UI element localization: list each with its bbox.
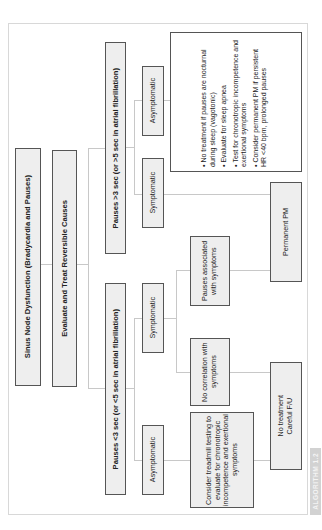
connector xyxy=(176,270,190,271)
pauses-short-label: Pauses <3 sec (or <5 sec in atrial fibri… xyxy=(111,309,120,469)
connector xyxy=(134,318,135,460)
evaluate-node: Evaluate and Treat Reversible Causes xyxy=(52,150,77,387)
recommendation-text: Evaluate for sleep apnea xyxy=(220,85,227,162)
connector xyxy=(134,194,142,195)
short-asymptomatic-node: Asymptomatic xyxy=(142,425,164,495)
root-node-label: Sinus Node Dysfunction (Bradycardia and … xyxy=(23,175,32,358)
connector xyxy=(134,100,135,195)
no-treatment-node: No treatment Careful F/U xyxy=(270,362,302,470)
recommendations-list: • No treatment if pauses are nocturnal d… xyxy=(198,33,274,171)
recommendations-box: • No treatment if pauses are nocturnal d… xyxy=(170,32,302,172)
evaluate-node-label: Evaluate and Treat Reversible Causes xyxy=(60,200,69,337)
connector xyxy=(176,372,190,373)
connector xyxy=(230,372,270,373)
permanent-pm-node: Permanent PM xyxy=(270,182,302,282)
recommendation-item: • Consider permanent PM if persistent HR… xyxy=(252,37,269,167)
short-symptomatic-label: Symptomatic xyxy=(149,297,158,339)
treadmill-node: Consider treadmill testing to evaluate f… xyxy=(190,412,254,508)
no-correlation-label: No correlation with symptoms xyxy=(201,339,218,405)
connector xyxy=(163,194,271,195)
pauses-short-node: Pauses <3 sec (or <5 sec in atrial fibri… xyxy=(105,283,126,495)
connector xyxy=(134,460,142,461)
long-asymptomatic-label: Asymptomatic xyxy=(149,78,158,123)
long-asymptomatic-node: Asymptomatic xyxy=(142,66,164,136)
connector xyxy=(163,100,170,101)
root-node: Sinus Node Dysfunction (Bradycardia and … xyxy=(15,148,41,386)
recommendation-text: Consider permanent PM if persistent HR <… xyxy=(252,49,268,167)
treadmill-label: Consider treadmill testing to evaluate f… xyxy=(205,413,240,507)
pauses-associated-label: Pauses associated with symptoms xyxy=(201,237,218,305)
connector xyxy=(230,270,270,271)
connector xyxy=(40,264,52,265)
connector xyxy=(76,264,88,265)
connector xyxy=(88,388,105,389)
connector xyxy=(88,148,105,149)
connector xyxy=(254,460,270,461)
connector xyxy=(88,148,89,388)
connector xyxy=(134,100,142,101)
connector xyxy=(176,270,177,373)
pauses-long-node: Pauses >3 sec (or >5 sec in atrial fibri… xyxy=(105,42,126,254)
connector xyxy=(163,460,190,461)
no-treatment-label: No treatment Careful F/U xyxy=(277,395,294,437)
short-asymptomatic-label: Asymptomatic xyxy=(149,437,158,482)
algorithm-label: ALGORITHM 1.2 xyxy=(310,448,321,515)
no-correlation-node: No correlation with symptoms xyxy=(190,338,230,406)
recommendation-text: Test for chronotropic incompetence and e… xyxy=(232,40,248,167)
recommendation-item: • Evaluate for sleep apnea xyxy=(220,37,229,167)
long-symptomatic-label: Symptomatic xyxy=(149,172,158,214)
recommendation-item: • Test for chronotropic incompetence and… xyxy=(232,37,249,167)
recommendation-text: No treatment if pauses are nocturnal dur… xyxy=(200,49,216,167)
short-symptomatic-node: Symptomatic xyxy=(142,283,164,353)
connector xyxy=(163,318,177,319)
recommendation-item: • No treatment if pauses are nocturnal d… xyxy=(200,37,217,167)
pauses-associated-node: Pauses associated with symptoms xyxy=(190,236,230,306)
connector xyxy=(134,318,142,319)
long-symptomatic-node: Symptomatic xyxy=(142,158,164,228)
algorithm-label-text: ALGORITHM 1.2 xyxy=(312,453,319,510)
permanent-pm-label: Permanent PM xyxy=(282,208,291,256)
pauses-long-label: Pauses >3 sec (or >5 sec in atrial fibri… xyxy=(111,68,120,228)
